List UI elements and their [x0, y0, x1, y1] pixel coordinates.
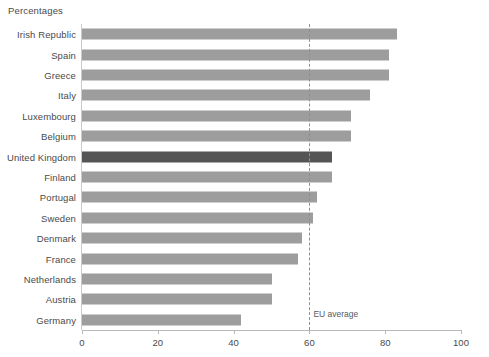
x-axis-tick — [158, 330, 159, 334]
x-axis-tick — [385, 330, 386, 334]
x-axis-tick — [461, 330, 462, 334]
chart-title: Percentages — [8, 5, 63, 16]
bar-row: Denmark — [82, 228, 461, 248]
bar-row: Greece — [82, 65, 461, 85]
category-label: Greece — [44, 69, 76, 80]
bar — [82, 233, 302, 244]
bar-row: Netherlands — [82, 269, 461, 289]
category-label: Portugal — [40, 192, 76, 203]
eu-average-label: EU average — [313, 309, 358, 319]
category-label: Germany — [36, 314, 76, 325]
category-label: Austria — [46, 294, 76, 305]
x-axis-tick — [82, 330, 83, 334]
x-axis-line — [82, 330, 461, 331]
x-axis-tick-label: 80 — [380, 337, 391, 348]
x-axis-tick-label: 20 — [153, 337, 164, 348]
bar — [82, 29, 397, 40]
bar-row: Portugal — [82, 187, 461, 207]
x-axis-tick — [234, 330, 235, 334]
bar-chart: Percentages Irish RepublicSpainGreeceIta… — [0, 0, 489, 357]
bar-row: Finland — [82, 167, 461, 187]
category-label: Sweden — [41, 212, 76, 223]
x-axis-tick-label: 40 — [228, 337, 239, 348]
bar-row: Luxembourg — [82, 106, 461, 126]
bar — [82, 171, 332, 182]
bar-row: United Kingdom — [82, 146, 461, 166]
category-label: Belgium — [41, 131, 76, 142]
bar-row: Belgium — [82, 126, 461, 146]
category-label: Luxembourg — [22, 110, 76, 121]
bar-row: Austria — [82, 289, 461, 309]
bar-row: Germany — [82, 310, 461, 330]
category-label: France — [46, 253, 76, 264]
category-label: Irish Republic — [17, 29, 76, 40]
bar — [82, 192, 317, 203]
bar-row: Spain — [82, 44, 461, 64]
category-label: Netherlands — [24, 273, 76, 284]
bar-row: France — [82, 248, 461, 268]
bar — [82, 212, 313, 223]
category-label: Spain — [51, 49, 76, 60]
eu-average-line — [309, 24, 310, 330]
plot-area: Irish RepublicSpainGreeceItalyLuxembourg… — [82, 24, 461, 330]
x-axis-tick-label: 100 — [453, 337, 469, 348]
category-label: Italy — [58, 90, 76, 101]
bar — [82, 151, 332, 162]
bar — [82, 253, 298, 264]
category-label: Denmark — [37, 233, 76, 244]
x-axis-tick — [309, 330, 310, 334]
category-label: United Kingdom — [7, 151, 76, 162]
bar — [82, 110, 351, 121]
x-axis-tick-label: 0 — [79, 337, 84, 348]
bar — [82, 90, 370, 101]
bar-row: Italy — [82, 85, 461, 105]
bar-row: Sweden — [82, 208, 461, 228]
bar — [82, 49, 389, 60]
bar-row: Irish Republic — [82, 24, 461, 44]
category-label: Finland — [44, 171, 76, 182]
bar — [82, 294, 272, 305]
bar — [82, 273, 272, 284]
bar — [82, 314, 241, 325]
x-axis-tick-label: 60 — [304, 337, 315, 348]
bar — [82, 131, 351, 142]
bar — [82, 69, 389, 80]
